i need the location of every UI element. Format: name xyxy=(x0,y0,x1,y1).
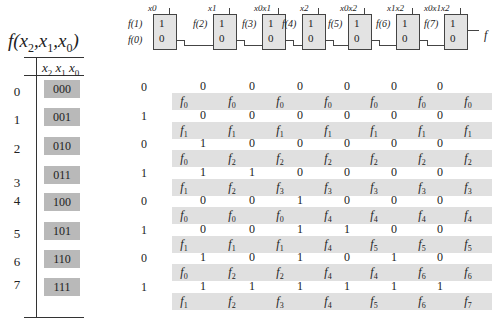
mux-input-0: 0 xyxy=(402,32,408,44)
x0-value: 1 xyxy=(139,280,149,295)
select-bit: 0 xyxy=(246,79,258,94)
stage-output: f3 xyxy=(270,294,290,310)
select-bit: 0 xyxy=(294,165,306,180)
mux-input-1: 1 xyxy=(159,17,165,29)
stage-output: f1 xyxy=(412,123,432,139)
row-index: 4 xyxy=(10,193,24,209)
stage-output: f0 xyxy=(174,208,194,224)
input-code-cell: 011 xyxy=(44,166,80,184)
select-bit: 0 xyxy=(197,222,209,237)
stage-output: f2 xyxy=(222,265,242,281)
chain-wire xyxy=(285,40,293,41)
function-input-label: f(5) xyxy=(328,18,342,29)
stage-output: f6 xyxy=(412,265,432,281)
stage-output: f5 xyxy=(458,237,478,253)
stage-output: f1 xyxy=(222,237,242,253)
x0-value: 0 xyxy=(139,80,149,95)
mux-input-0: 0 xyxy=(268,32,274,44)
select-bit: 0 xyxy=(388,193,400,208)
select-bit: 1 xyxy=(341,279,353,294)
select-bit: 0 xyxy=(197,79,209,94)
select-bit: 0 xyxy=(341,193,353,208)
select-bit: 0 xyxy=(388,108,400,123)
select-wire xyxy=(364,8,365,14)
table-header: x2 x1 x0 xyxy=(42,60,79,78)
stage-output: f0 xyxy=(174,151,194,167)
stage-output: f2 xyxy=(270,151,290,167)
mux-input-1: 1 xyxy=(450,17,456,29)
mux-input-1: 1 xyxy=(219,17,225,29)
select-bit: 0 xyxy=(294,108,306,123)
table-bottom-rule xyxy=(24,317,84,318)
mux-input-0: 0 xyxy=(354,32,360,44)
chain-wire xyxy=(176,40,184,41)
table-index-divider xyxy=(36,57,37,317)
select-label: x0x1x2 xyxy=(424,3,449,13)
stage-output: f4 xyxy=(318,237,338,253)
x0-value: 0 xyxy=(139,194,149,209)
stage-output: f2 xyxy=(318,151,338,167)
stage-output: f4 xyxy=(318,208,338,224)
select-bit: 0 xyxy=(341,108,353,123)
select-bit: 1 xyxy=(246,279,258,294)
input-code-cell: 010 xyxy=(44,137,80,155)
row-index: 0 xyxy=(10,84,24,100)
select-bit: 0 xyxy=(434,222,446,237)
select-bit: 0 xyxy=(388,136,400,151)
select-bit: 0 xyxy=(197,108,209,123)
select-bit: 0 xyxy=(388,79,400,94)
input-code-cell: 100 xyxy=(44,193,80,211)
output-wire xyxy=(467,30,479,31)
row-index: 7 xyxy=(10,277,24,293)
multiplexer: 10 xyxy=(153,14,177,50)
stage-output: f1 xyxy=(270,237,290,253)
select-label: x0x1 xyxy=(254,3,271,13)
stage-output: f2 xyxy=(458,151,478,167)
select-bit: 0 xyxy=(246,250,258,265)
table-top-rule xyxy=(24,57,84,58)
select-bit: 1 xyxy=(197,136,209,151)
select-bit: 0 xyxy=(434,108,446,123)
stage-output: f5 xyxy=(412,237,432,253)
input-code-cell: 001 xyxy=(44,108,80,126)
stage-output: f1 xyxy=(174,237,194,253)
select-bit: 1 xyxy=(294,193,306,208)
stage-output: f3 xyxy=(318,180,338,196)
x0-value: 1 xyxy=(139,223,149,238)
chain-wire xyxy=(333,45,348,46)
stage-output: f2 xyxy=(364,151,384,167)
stage-output: f0 xyxy=(318,94,338,110)
stage-output: f0 xyxy=(412,94,432,110)
input-f1-label: f(1) xyxy=(128,18,142,29)
mux-input-0: 0 xyxy=(159,32,165,44)
function-title: f(x2,x1,x0) xyxy=(8,30,79,56)
stage-output: f3 xyxy=(270,180,290,196)
input-code-cell: 110 xyxy=(44,250,80,268)
select-bit: 1 xyxy=(294,222,306,237)
select-wire xyxy=(412,8,413,14)
stage-output: f2 xyxy=(412,151,432,167)
select-label: x0 xyxy=(148,3,157,13)
select-bit: 0 xyxy=(246,193,258,208)
stage-output: f1 xyxy=(222,123,242,139)
x0-value: 1 xyxy=(139,166,149,181)
x0-value: 0 xyxy=(139,251,149,266)
mux-input-0: 0 xyxy=(308,32,314,44)
stage-output: f1 xyxy=(174,294,194,310)
function-input-label: f(4) xyxy=(282,18,296,29)
output-f-label: f xyxy=(484,28,487,43)
stage-output: f1 xyxy=(458,123,478,139)
select-bit: 0 xyxy=(197,193,209,208)
multiplexer: 10 xyxy=(444,14,468,50)
mux-input-1: 1 xyxy=(402,17,408,29)
row-index: 1 xyxy=(10,112,24,128)
stage-output: f3 xyxy=(412,180,432,196)
chain-wire xyxy=(371,40,379,41)
stage-output: f2 xyxy=(222,180,242,196)
select-bit: 1 xyxy=(434,279,446,294)
chain-wire xyxy=(427,45,444,46)
input-code-cell: 111 xyxy=(44,278,80,296)
stage-output: f0 xyxy=(364,94,384,110)
select-bit: 0 xyxy=(388,222,400,237)
select-bit: 1 xyxy=(341,222,353,237)
